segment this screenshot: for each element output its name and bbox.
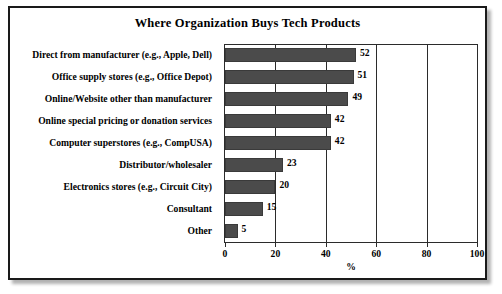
bar-value-label: 52 <box>360 47 370 58</box>
bar-value-label: 51 <box>358 69 368 80</box>
category-label: Consultant <box>6 203 212 214</box>
category-label: Other <box>6 225 212 236</box>
bar-row[interactable]: 42 <box>225 133 477 155</box>
x-tick-label: 100 <box>470 248 484 259</box>
x-axis-title: % <box>224 261 478 272</box>
x-tick-label: 0 <box>223 248 228 259</box>
bar-value-label: 23 <box>287 157 297 168</box>
bar-row[interactable]: 49 <box>225 89 477 111</box>
screenshot-root: Where Organization Buys Tech Products Di… <box>0 0 502 294</box>
bar-row[interactable]: 52 <box>225 45 477 67</box>
x-tick-mark <box>427 243 428 247</box>
chart-title: Where Organization Buys Tech Products <box>10 16 485 31</box>
x-tick-label: 60 <box>371 248 381 259</box>
x-tick-mark <box>275 243 276 247</box>
plot-area: 52514942422320155 <box>224 44 478 243</box>
bar-row[interactable]: 5 <box>225 221 477 243</box>
bar[interactable] <box>225 48 356 62</box>
category-label: Computer superstores (e.g., CompUSA) <box>6 137 212 148</box>
bar[interactable] <box>225 180 275 194</box>
category-label: Online/Website other than manufacturer <box>6 93 212 104</box>
bar[interactable] <box>225 202 263 216</box>
bar[interactable] <box>225 92 348 106</box>
bar[interactable] <box>225 158 283 172</box>
bar-row[interactable]: 23 <box>225 155 477 177</box>
bar-row[interactable]: 42 <box>225 111 477 133</box>
category-label: Electronics stores (e.g., Circuit City) <box>6 181 212 192</box>
bar[interactable] <box>225 114 331 128</box>
bar-row[interactable]: 51 <box>225 67 477 89</box>
x-tick-mark <box>477 243 478 247</box>
category-axis-labels: Direct from manufacturer (e.g., Apple, D… <box>10 45 216 242</box>
x-tick-label: 40 <box>321 248 331 259</box>
figure-frame: Where Organization Buys Tech Products Di… <box>8 6 487 280</box>
bar-value-label: 42 <box>335 135 345 146</box>
bar-row[interactable]: 15 <box>225 199 477 221</box>
category-label: Direct from manufacturer (e.g., Apple, D… <box>6 49 212 60</box>
bar[interactable] <box>225 224 238 238</box>
x-tick-label: 80 <box>422 248 432 259</box>
x-tick-label: 20 <box>271 248 281 259</box>
bar-row[interactable]: 20 <box>225 177 477 199</box>
bar[interactable] <box>225 70 354 84</box>
category-label: Office supply stores (e.g., Office Depot… <box>6 71 212 82</box>
x-tick-mark <box>376 243 377 247</box>
x-tick-mark <box>326 243 327 247</box>
bar-value-label: 49 <box>352 91 362 102</box>
bar[interactable] <box>225 136 331 150</box>
bar-value-label: 15 <box>267 201 277 212</box>
bar-value-label: 42 <box>335 113 345 124</box>
x-tick-mark <box>225 243 226 247</box>
chart-body: Direct from manufacturer (e.g., Apple, D… <box>10 38 485 278</box>
bar-value-label: 5 <box>242 223 247 234</box>
category-label: Distributor/wholesaler <box>6 159 212 170</box>
category-label: Online special pricing or donation servi… <box>6 115 212 126</box>
bar-value-label: 20 <box>279 179 289 190</box>
